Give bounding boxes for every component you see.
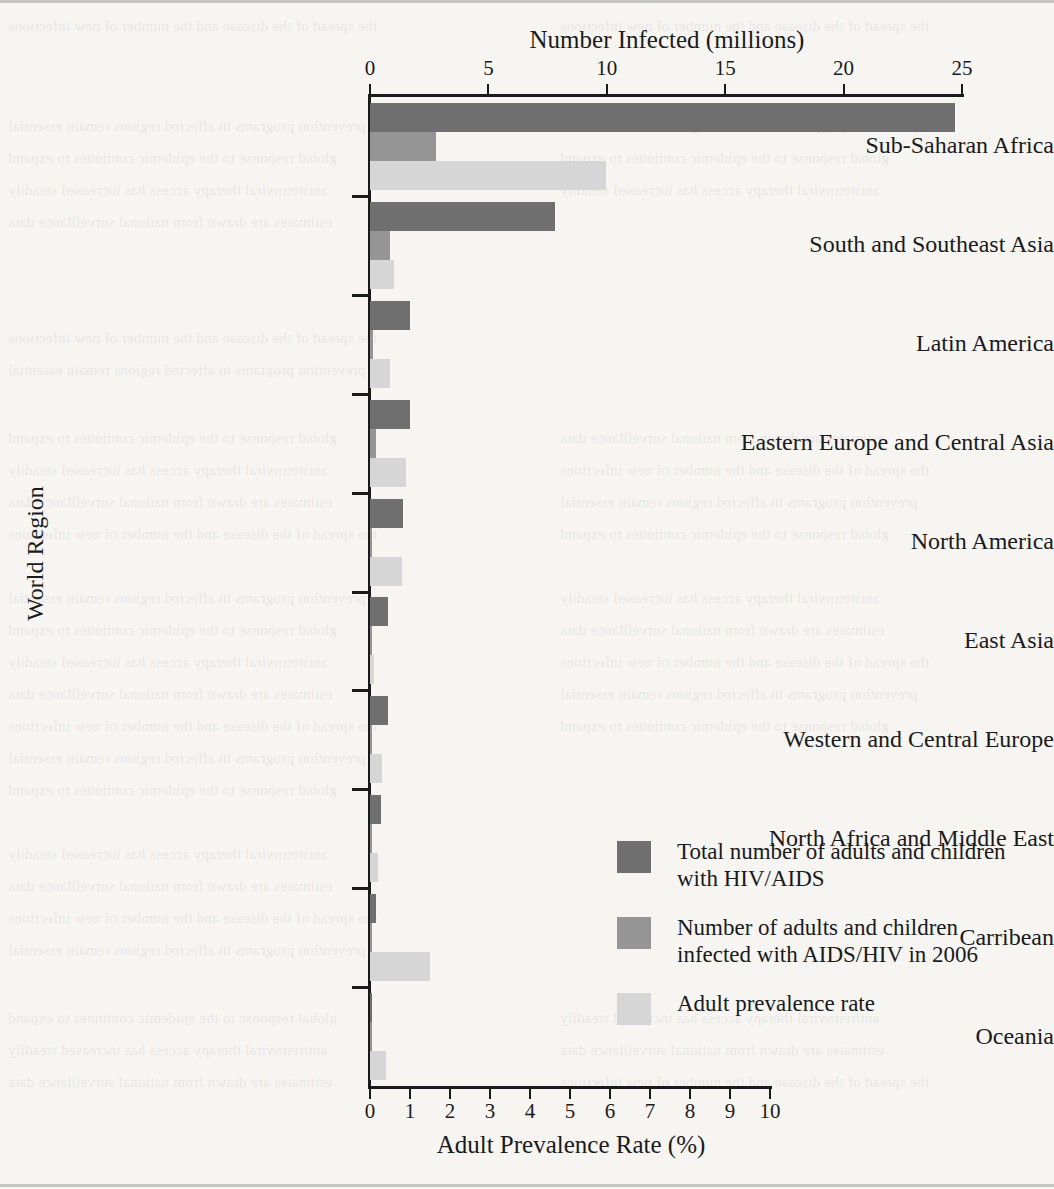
bar-total [370, 202, 555, 231]
top-axis-tick-label: 25 [942, 58, 982, 79]
legend-swatch-total [617, 841, 651, 873]
scanned-page: the spread of the disease and the number… [0, 0, 1054, 1189]
bar-prevalence [370, 655, 374, 684]
bottom-axis-tick-label: 2 [430, 1101, 470, 1122]
bottom-axis-tick [409, 1089, 411, 1099]
bar-total [370, 499, 403, 528]
hiv-aids-bar-chart: Number Infected (millions) Adult Prevale… [0, 0, 1054, 1189]
bar-new-2006 [370, 626, 372, 655]
bottom-axis-tick [529, 1089, 531, 1099]
legend-swatch-prevalence [617, 993, 651, 1025]
bottom-axis-tick-label: 10 [750, 1101, 790, 1122]
legend-item-label: Number of adults and children infected w… [677, 914, 1007, 968]
bar-new-2006 [370, 725, 372, 754]
legend-item-label: Adult prevalence rate [677, 990, 875, 1017]
legend-item: Number of adults and children infected w… [617, 914, 1037, 968]
bottom-axis-tick-label: 7 [630, 1101, 670, 1122]
bar-new-2006 [370, 132, 436, 161]
bottom-axis-title: Adult Prevalence Rate (%) [370, 1131, 772, 1159]
top-axis-tick-label: 15 [705, 58, 745, 79]
bar-total [370, 894, 376, 923]
bar-total [370, 696, 388, 725]
bar-total [370, 400, 410, 429]
bar-new-2006 [370, 1022, 372, 1051]
bottom-axis-tick-label: 8 [670, 1101, 710, 1122]
top-axis-tick-label: 5 [468, 58, 508, 79]
y-axis-tick [352, 195, 370, 198]
bottom-axis-tick-label: 5 [550, 1101, 590, 1122]
bar-new-2006 [370, 824, 372, 853]
bar-total [370, 103, 955, 132]
top-axis-line [370, 94, 964, 97]
category-label-south-and-southeast-asia: South and Southeast Asia [714, 231, 1054, 257]
top-axis-tick-label: 20 [824, 58, 864, 79]
bottom-axis-tick-label: 4 [510, 1101, 550, 1122]
bar-new-2006 [370, 528, 372, 557]
bar-new-2006 [370, 923, 372, 952]
bottom-axis-tick [569, 1089, 571, 1099]
bar-prevalence [370, 359, 390, 388]
top-axis-tick [369, 84, 371, 94]
legend-swatch-new-2006 [617, 917, 651, 949]
category-label-sub-saharan-africa: Sub-Saharan Africa [714, 132, 1054, 158]
legend-item: Adult prevalence rate [617, 990, 1037, 1025]
bottom-axis-tick-label: 0 [350, 1101, 390, 1122]
bottom-axis-line [370, 1086, 772, 1089]
y-axis-tick [352, 986, 370, 989]
top-axis-tick-label: 10 [587, 58, 627, 79]
top-axis-tick [724, 84, 726, 94]
y-axis-tick [352, 393, 370, 396]
category-label-east-asia: East Asia [714, 627, 1054, 653]
y-axis-tick [352, 591, 370, 594]
legend-item: Total number of adults and children with… [617, 838, 1037, 892]
bottom-axis-tick-label: 1 [390, 1101, 430, 1122]
bottom-axis-tick-label: 3 [470, 1101, 510, 1122]
bar-prevalence [370, 853, 378, 882]
y-axis-tick [352, 788, 370, 791]
top-axis-tick [961, 84, 963, 94]
bar-new-2006 [370, 231, 390, 260]
category-label-western-and-central-europe: Western and Central Europe [714, 726, 1054, 752]
bar-total [370, 301, 410, 330]
top-axis-tick [843, 84, 845, 94]
bottom-axis-tick [729, 1089, 731, 1099]
y-axis-title: World Region [22, 464, 49, 644]
bar-prevalence [370, 260, 394, 289]
bottom-axis-tick [649, 1089, 651, 1099]
top-axis-tick-label: 0 [350, 58, 390, 79]
bar-new-2006 [370, 330, 373, 359]
category-label-eastern-europe-and-central-asia: Eastern Europe and Central Asia [714, 429, 1054, 455]
category-label-north-america: North America [714, 528, 1054, 554]
bar-new-2006 [370, 429, 376, 458]
bottom-axis-tick-label: 6 [590, 1101, 630, 1122]
bottom-axis-tick [489, 1089, 491, 1099]
top-axis-tick [487, 84, 489, 94]
bottom-axis-tick [689, 1089, 691, 1099]
legend-item-label: Total number of adults and children with… [677, 838, 1007, 892]
top-axis-title: Number Infected (millions) [370, 26, 964, 54]
bottom-axis-tick [369, 1089, 371, 1099]
bar-prevalence [370, 1051, 386, 1080]
bottom-axis-tick-label: 9 [710, 1101, 750, 1122]
bar-total [370, 993, 372, 1022]
bar-prevalence [370, 754, 382, 783]
bottom-axis-tick [449, 1089, 451, 1099]
y-axis-tick [352, 294, 370, 297]
bottom-axis-tick [609, 1089, 611, 1099]
bar-total [370, 597, 388, 626]
bar-total [370, 795, 381, 824]
bar-prevalence [370, 557, 402, 586]
y-axis-tick [352, 887, 370, 890]
bar-prevalence [370, 161, 606, 190]
category-label-latin-america: Latin America [714, 330, 1054, 356]
y-axis-tick [352, 492, 370, 495]
bar-prevalence [370, 458, 406, 487]
bottom-axis-tick [769, 1089, 771, 1099]
chart-legend: Total number of adults and children with… [617, 838, 1037, 1047]
bar-prevalence [370, 952, 430, 981]
top-axis-tick [606, 84, 608, 94]
y-axis-tick [352, 689, 370, 692]
